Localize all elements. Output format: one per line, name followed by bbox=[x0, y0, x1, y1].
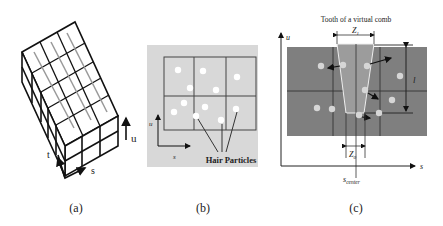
axis-label-u: u bbox=[149, 120, 153, 128]
panel-a-grid-box: u t s bbox=[22, 22, 137, 178]
axis-label-u: u bbox=[286, 33, 290, 42]
z0-label: Z0 bbox=[349, 150, 356, 160]
axis-label-u: u bbox=[131, 132, 137, 144]
axis-label-s: s bbox=[420, 162, 423, 171]
axis-label-s: s bbox=[91, 165, 95, 176]
comb-title: Tooth of a virtual comb bbox=[321, 15, 392, 24]
panel-c-comb: Tooth of a virtual comb Z1 l bbox=[281, 15, 427, 185]
axis-label-t: t bbox=[47, 149, 50, 160]
s-center-label: scenter bbox=[343, 175, 361, 185]
caption-a: (a) bbox=[69, 201, 82, 215]
z1-label: Z1 bbox=[352, 26, 359, 36]
axis-label-s: s bbox=[173, 153, 176, 161]
caption-c: (c) bbox=[349, 201, 362, 215]
caption-b: (b) bbox=[196, 201, 210, 215]
hair-particles-label: Hair Particles bbox=[206, 155, 257, 165]
figure-canvas: u t s (a) bbox=[0, 0, 443, 226]
panel-b-grid: u s Hair Particles bbox=[147, 45, 258, 167]
